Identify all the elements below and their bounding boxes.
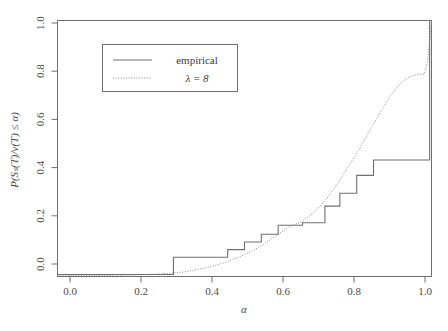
x-tick-label: 0.0	[63, 285, 77, 297]
legend-label-empirical: empirical	[176, 54, 218, 66]
x-axis-title: α	[241, 303, 247, 315]
legend-label-model: λ = 8	[184, 72, 209, 84]
x-tick-label: 0.2	[134, 285, 148, 297]
x-tick-label: 1.0	[418, 285, 432, 297]
y-axis-title: P(Sₛ(T)/ν(T) ≤ α)	[8, 112, 21, 189]
y-tick-label: 0.0	[34, 257, 46, 271]
y-tick-label: 0.4	[34, 160, 46, 174]
x-tick-label: 0.6	[276, 285, 290, 297]
legend: empirical λ = 8	[103, 45, 238, 92]
y-tick-label: 0.2	[34, 209, 46, 223]
x-tick-label: 0.8	[347, 285, 361, 297]
y-tick-label: 0.6	[34, 112, 46, 126]
y-tick-label: 1.0	[34, 16, 46, 30]
chart-figure: 0.0 0.2 0.4 0.6 0.8 1.0 0.0 0.2 0.4 0.6 …	[0, 0, 448, 331]
x-tick-label: 0.4	[205, 285, 219, 297]
plot-canvas: 0.0 0.2 0.4 0.6 0.8 1.0 0.0 0.2 0.4 0.6 …	[0, 0, 448, 331]
y-tick-label: 0.8	[34, 64, 46, 78]
legend-box	[103, 45, 238, 92]
